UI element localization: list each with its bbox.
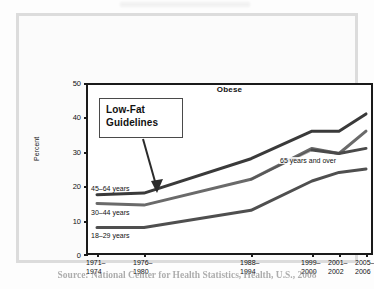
callout-arrow-shaft	[143, 139, 156, 185]
figure-inner: Percent 50 40 30 20 10 0 Obese	[39, 33, 373, 275]
scan-artifact	[120, 2, 250, 7]
figure-frame: Percent 50 40 30 20 10 0 Obese	[16, 13, 358, 263]
series-line-18-29	[97, 169, 366, 228]
series-label-65-over: 65 years and over	[279, 157, 337, 164]
series-label-30-44: 30–44 years	[90, 209, 131, 216]
scanned-page: Percent 50 40 30 20 10 0 Obese	[0, 0, 374, 289]
low-fat-guidelines-callout: Low-Fat Guidelines	[99, 98, 183, 138]
callout-line-2: Guidelines	[106, 116, 182, 129]
series-label-45-64: 45–64 years	[90, 185, 131, 192]
source-caption: Source: National Center for Health Stati…	[0, 270, 374, 280]
series-label-18-29: 18–29 years	[90, 232, 131, 239]
callout-line-1: Low-Fat	[106, 103, 182, 116]
